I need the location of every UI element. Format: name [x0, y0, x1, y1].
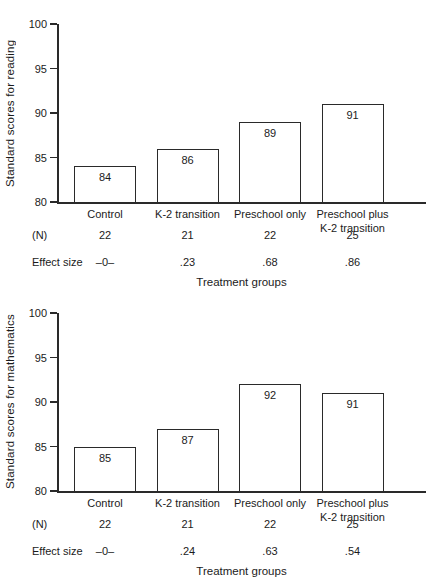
n-value: 22 — [75, 518, 135, 530]
y-axis-title: Standard scores for mathematics — [2, 313, 18, 491]
n-row-label: (N) — [32, 229, 47, 241]
effect-size-value: .86 — [323, 256, 383, 268]
y-axis-line — [57, 313, 59, 493]
figure-page: Standard scores for reading (N) Effect s… — [0, 0, 427, 577]
y-axis-tick — [50, 201, 57, 203]
bar-value-label: 92 — [240, 389, 300, 401]
n-row-label: (N) — [32, 518, 47, 530]
bar-value-label: 91 — [323, 109, 383, 121]
y-axis-tick-label: 80 — [19, 196, 47, 208]
y-axis-tick — [50, 446, 57, 448]
bar-value-label: 91 — [323, 398, 383, 410]
n-value: 21 — [158, 518, 218, 530]
x-axis-title: Treatment groups — [57, 276, 426, 288]
bar-value-label: 85 — [75, 452, 135, 464]
mathematics-score-chart: Standard scores for mathematics (N) Effe… — [0, 289, 427, 577]
y-axis-tick-label: 100 — [19, 18, 47, 30]
y-axis-tick — [50, 312, 57, 314]
y-axis-tick — [50, 401, 57, 403]
y-axis-tick — [50, 23, 57, 25]
y-axis-tick — [50, 68, 57, 70]
y-axis-tick-label: 90 — [19, 396, 47, 408]
effect-size-value: .23 — [158, 256, 218, 268]
bar-value-label: 89 — [240, 127, 300, 139]
y-axis-tick-label: 100 — [19, 307, 47, 319]
x-axis-title: Treatment groups — [57, 565, 426, 577]
x-axis-line — [57, 202, 426, 204]
effect-size-value: .63 — [240, 545, 300, 557]
n-value: 22 — [240, 229, 300, 241]
x-axis-line — [57, 491, 426, 493]
bar-value-label: 84 — [75, 171, 135, 183]
n-value: 25 — [323, 229, 383, 241]
reading-score-chart: Standard scores for reading (N) Effect s… — [0, 0, 427, 288]
y-axis-tick-label: 90 — [19, 107, 47, 119]
n-value: 25 — [323, 518, 383, 530]
y-axis-line — [57, 24, 59, 204]
y-axis-tick-label: 95 — [19, 63, 47, 75]
y-axis-tick — [50, 357, 57, 359]
bar-value-label: 86 — [158, 154, 218, 166]
n-value: 21 — [158, 229, 218, 241]
y-axis-title: Standard scores for reading — [2, 24, 18, 202]
y-axis-tick — [50, 490, 57, 492]
effect-size-value: –0– — [75, 545, 135, 557]
effect-size-value: .68 — [240, 256, 300, 268]
y-axis-tick-label: 85 — [19, 152, 47, 164]
y-axis-tick-label: 80 — [19, 485, 47, 497]
y-axis-tick-label: 85 — [19, 441, 47, 453]
n-value: 22 — [240, 518, 300, 530]
bar-value-label: 87 — [158, 434, 218, 446]
n-value: 22 — [75, 229, 135, 241]
y-axis-tick-label: 95 — [19, 352, 47, 364]
y-axis-tick — [50, 157, 57, 159]
y-axis-tick — [50, 112, 57, 114]
effect-size-value: –0– — [75, 256, 135, 268]
effect-size-value: .54 — [323, 545, 383, 557]
effect-size-value: .24 — [158, 545, 218, 557]
